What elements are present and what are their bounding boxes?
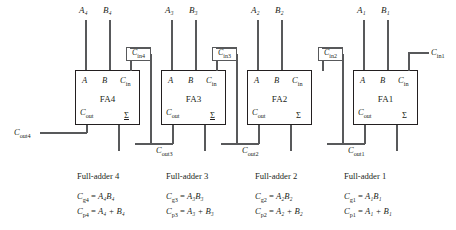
wire-carry3-drop-from-fa3-cout bbox=[172, 125, 174, 144]
pin-label-cout-fa3: Cout bbox=[166, 108, 180, 119]
full-adder-block-fa2: A B Cin FA2 Cout Σ bbox=[247, 70, 312, 125]
carry-in-label-cin2: Cin2 bbox=[324, 49, 337, 59]
pin-label-cout-fa2: Cout bbox=[252, 108, 266, 119]
equation-generate-3: Cg3 = A₃B₃ bbox=[166, 192, 204, 203]
wire-carry3-top bbox=[130, 47, 151, 49]
wire-b4-in bbox=[109, 20, 111, 70]
pin-label-sum-fa3: Σ bbox=[210, 111, 215, 120]
wire-cout4-run bbox=[40, 132, 87, 134]
wire-carry2-riser bbox=[236, 54, 238, 144]
equation-propagate-4: Cp4 = A₄ + B₄ bbox=[77, 207, 125, 218]
input-label-b1: B₁ bbox=[381, 6, 390, 15]
pin-label-a-fa3: A bbox=[168, 76, 173, 85]
wire-sum-out-fa1 bbox=[396, 125, 398, 151]
pin-label-cin-fa2: Cin bbox=[292, 76, 303, 87]
pin-label-cin-fa1: Cin bbox=[398, 76, 409, 87]
wire-carry1-bottom bbox=[327, 143, 365, 145]
equation-propagate-3: Cp3 = A₃ + B₃ bbox=[166, 207, 214, 218]
wire-cin1-run bbox=[408, 52, 429, 54]
wire-cin2-down-to-block bbox=[322, 61, 324, 71]
wire-cin1-down-to-block bbox=[408, 52, 410, 71]
pin-label-a-fa1: A bbox=[360, 76, 365, 85]
pin-label-b-fa4: B bbox=[102, 76, 107, 85]
pin-label-cout-fa1: Cout bbox=[358, 108, 372, 119]
input-label-a4: A₄ bbox=[79, 6, 88, 15]
pin-label-cout-fa4: Cout bbox=[80, 108, 94, 119]
wire-a2-in bbox=[257, 20, 259, 70]
wire-carry1-top bbox=[322, 47, 343, 49]
block-name-fa4: FA4 bbox=[76, 94, 139, 104]
wire-a4-in bbox=[85, 20, 87, 70]
pin-label-b-fa2: B bbox=[274, 76, 279, 85]
wire-carry2-bottom bbox=[221, 143, 259, 145]
input-label-b3: B₃ bbox=[189, 6, 198, 15]
equation-propagate-1: Cp1 = A₁ + B₁ bbox=[344, 207, 392, 218]
block-name-fa1: FA1 bbox=[354, 94, 417, 104]
full-adder-block-fa1: A B Cin FA1 Cout Σ bbox=[353, 70, 418, 125]
pin-label-b-fa1: B bbox=[380, 76, 385, 85]
pin-label-cin-fa4: Cin bbox=[120, 76, 131, 87]
wire-carry1-drop-from-fa1-cout bbox=[364, 125, 366, 144]
carry-in-node-cin4: Cin4 bbox=[126, 47, 151, 61]
wire-cin4-down-to-block bbox=[130, 61, 132, 71]
carry-in-node-cin3: Cin3 bbox=[212, 47, 237, 61]
pin-label-sum-fa2: Σ bbox=[296, 111, 301, 120]
carry-in-node-cin2: Cin2 bbox=[318, 47, 343, 61]
equation-generate-2: Cg2 = A₂B₂ bbox=[255, 192, 293, 203]
pin-label-sum-fa1: Σ bbox=[402, 111, 407, 120]
carry-in-label-cin1: Cin1 bbox=[431, 48, 445, 59]
input-label-a2: A₂ bbox=[251, 6, 260, 15]
caption-full-adder-2: Full-adder 2 bbox=[255, 172, 297, 181]
wire-carry2-top bbox=[216, 47, 237, 49]
wire-cin3-down-to-block bbox=[216, 61, 218, 71]
wire-sum-out-fa4 bbox=[118, 125, 120, 151]
wire-carry1-riser bbox=[342, 54, 344, 144]
carry-in-label-cin4: Cin4 bbox=[132, 49, 145, 59]
carry-in-label-cin3: Cin3 bbox=[218, 49, 231, 59]
equation-generate-1: Cg1 = A₁B₁ bbox=[344, 192, 382, 203]
wire-carry3-riser bbox=[150, 54, 152, 144]
caption-full-adder-3: Full-adder 3 bbox=[166, 172, 208, 181]
carry-label-cout1: Cout1 bbox=[348, 146, 365, 157]
wire-b2-in bbox=[281, 20, 283, 70]
wire-sum-out-fa3 bbox=[204, 125, 206, 151]
full-adder-block-fa3: A B Cin FA3 Cout Σ bbox=[161, 70, 226, 125]
pin-label-a-fa4: A bbox=[82, 76, 87, 85]
carry-label-cout2: Cout2 bbox=[242, 146, 259, 157]
wire-b1-in bbox=[387, 20, 389, 70]
equation-propagate-2: Cp2 = A₂ + B₂ bbox=[255, 207, 303, 218]
block-name-fa3: FA3 bbox=[162, 94, 225, 104]
input-label-b4: B₄ bbox=[103, 6, 112, 15]
wire-sum-out-fa2 bbox=[290, 125, 292, 151]
pin-label-b-fa3: B bbox=[188, 76, 193, 85]
input-label-b2: B₂ bbox=[275, 6, 284, 15]
input-label-a1: A₁ bbox=[357, 6, 366, 15]
carry-out-label-cout4: Cout4 bbox=[14, 128, 31, 139]
wire-a3-in bbox=[171, 20, 173, 70]
wire-a1-in bbox=[363, 20, 365, 70]
caption-full-adder-4: Full-adder 4 bbox=[77, 172, 119, 181]
carry-label-cout3: Cout3 bbox=[156, 146, 173, 157]
wire-carry2-drop-from-fa2-cout bbox=[258, 125, 260, 144]
wire-b3-in bbox=[195, 20, 197, 70]
caption-full-adder-1: Full-adder 1 bbox=[344, 172, 386, 181]
pin-label-a-fa2: A bbox=[254, 76, 259, 85]
full-adder-block-fa4: A B Cin FA4 Cout Σ bbox=[75, 70, 140, 125]
pin-label-cin-fa3: Cin bbox=[206, 76, 217, 87]
pin-label-sum-fa4: Σ bbox=[124, 111, 129, 120]
block-name-fa2: FA2 bbox=[248, 94, 311, 104]
input-label-a3: A₃ bbox=[165, 6, 174, 15]
equation-generate-4: Cg4 = A₄B₄ bbox=[77, 192, 115, 203]
ripple-carry-adder-diagram: A₄ B₄ A B Cin FA4 Cout Σ Cout4 Ci bbox=[0, 0, 456, 230]
wire-carry3-bottom bbox=[135, 143, 173, 145]
